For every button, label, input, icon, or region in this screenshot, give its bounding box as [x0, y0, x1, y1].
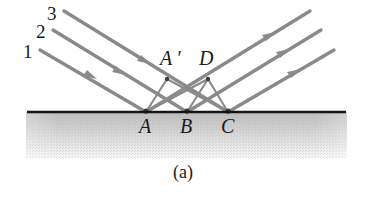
ray-label-1: 1: [23, 42, 33, 61]
figure-caption: (a): [173, 163, 193, 181]
incident-ray-1: [40, 50, 146, 112]
point-label-a-prime: A ′: [160, 48, 181, 68]
reflection-diagram-figure: 3 2 1 A ′ D A B C (a): [0, 0, 369, 207]
incident-arrowheads-group: [83, 55, 151, 79]
reflected-arrowheads-group: [262, 32, 301, 78]
point-label-d: D: [199, 48, 213, 68]
node-d-dot: [206, 77, 210, 81]
ray-label-2: 2: [36, 22, 46, 41]
point-label-c: C: [221, 116, 234, 136]
ray-label-3: 3: [47, 4, 57, 23]
reflected-ray-3: [228, 50, 334, 112]
point-label-b: B: [180, 116, 192, 136]
point-label-a: A: [139, 116, 151, 136]
node-a-prime-dot: [165, 77, 169, 81]
